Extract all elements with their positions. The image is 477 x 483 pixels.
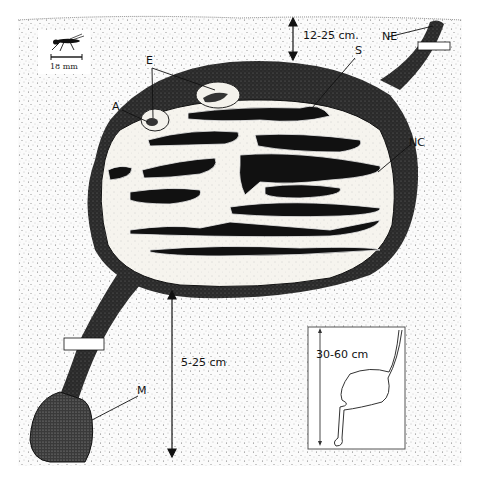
label-s: S [355, 44, 362, 57]
label-e: E [146, 54, 153, 67]
label-m: M [137, 384, 147, 397]
diagram-canvas [0, 0, 477, 483]
inset-depth-label: 30-60 cm [316, 348, 368, 361]
top-depth-label: 12-25 cm. [303, 29, 359, 42]
tunnel-break-top [418, 42, 450, 50]
label-nc: NC [409, 136, 425, 149]
bottom-depth-label: 5-25 cm [181, 356, 226, 369]
scale-bar-label: 18 mm [50, 62, 78, 71]
label-a: A [112, 100, 120, 113]
tunnel-break-bottom [64, 338, 104, 350]
label-ne: NE [382, 30, 397, 43]
nest-diagram: 18 mm E A S NE NC M 12-25 cm. 5-25 cm 30… [0, 0, 477, 483]
inset-overview [308, 327, 405, 449]
